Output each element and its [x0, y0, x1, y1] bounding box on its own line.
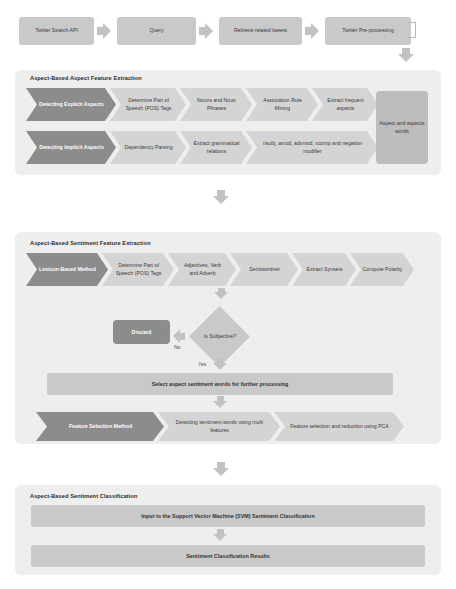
stage-label: Twitter Pre-processing — [342, 27, 394, 34]
arrow-head — [213, 468, 229, 476]
connector-stub — [408, 22, 416, 38]
chevron-feature-selection-reduction-pca[interactable]: Feature selection and reduction using PC… — [274, 412, 404, 441]
chevron-dependency-parsing[interactable]: Dependency Parsing — [110, 131, 186, 164]
arrow-head — [103, 23, 111, 39]
chevron-detecting-implicit-aspects[interactable]: Detecting Implicit Aspects — [26, 131, 116, 164]
chevron-label: Detecting Implicit Aspects — [39, 144, 104, 151]
chevron-label: Extract frequent aspects — [324, 97, 367, 111]
stage-label: Retrieve related tweets — [234, 27, 287, 34]
chevron-label: nsubj, amod, advmod, xcomp and negation … — [258, 140, 367, 154]
arrow-retrieve-to-preprocessing — [305, 23, 319, 39]
bar-input-to-svm-classification[interactable]: Input to the Support Vector Machine (SVM… — [31, 505, 425, 527]
arrow-head — [213, 196, 229, 204]
chevron-label: Dependency Parsing — [124, 144, 172, 151]
chevron-label: Feature Selection Method — [69, 423, 132, 430]
bar-label: Select aspect sentiment words for furthe… — [152, 381, 289, 387]
stage-retrieve-related-tweets[interactable]: Retrieve related tweets — [219, 17, 302, 45]
arrow-head — [311, 23, 319, 39]
output-box-aspect-and-aspects-words[interactable]: Aspect and aspects words — [376, 91, 428, 164]
chevron-label: Adjectives, Verb and Adverb — [180, 262, 225, 276]
arrow-head — [213, 534, 227, 541]
chevron-detecting-sentiment-words-multi-features[interactable]: Detecting sentiment words using multi fe… — [158, 412, 280, 441]
decision-label: Is Subjective? — [204, 333, 236, 340]
arrow-decision-to-select-bar — [213, 358, 227, 372]
arrow-search-to-query — [97, 23, 111, 39]
stage-label: Twitter Search API — [35, 27, 78, 34]
arrow-head — [213, 401, 227, 408]
arrow-head — [214, 292, 228, 299]
edge-label-no: No — [174, 344, 180, 350]
output-box-label: Aspect and aspects words — [376, 120, 428, 135]
chevron-label: Determine Part of Speech (POS) Tags — [122, 97, 175, 111]
panel-title-sentiment: Aspect-Based Sentiment Feature Extractio… — [30, 240, 151, 246]
bar-select-aspect-sentiment-words[interactable]: Select aspect sentiment words for furthe… — [47, 373, 393, 395]
arrow-head — [205, 23, 213, 39]
chevron-determine-pos-tags-explicit[interactable]: Determine Part of Speech (POS) Tags — [110, 88, 186, 121]
chevron-feature-selection-method[interactable]: Feature Selection Method — [36, 412, 164, 441]
decision-label-wrapper: Is Subjective? — [190, 320, 250, 354]
arrow-select-bar-to-feature-row — [213, 396, 227, 409]
chevron-label: Detecting Explicit Aspects — [39, 101, 104, 108]
stage-label: Query — [149, 27, 163, 34]
arrow-polarity-to-decision — [214, 288, 228, 300]
arrow-decision-to-discard — [172, 329, 185, 343]
chevron-detecting-explicit-aspects[interactable]: Detecting Explicit Aspects — [26, 88, 116, 121]
stage-query[interactable]: Query — [117, 17, 196, 45]
panel-title-aspect: Aspect-Based Aspect Feature Extraction — [30, 75, 142, 81]
edge-label-yes: Yes — [198, 361, 206, 367]
chevron-lexicon-based-method[interactable]: Lexicon-Based Method — [26, 253, 108, 286]
stage-twitter-preprocessing[interactable]: Twitter Pre-processing — [325, 17, 411, 45]
arrow-svm-to-results — [213, 529, 227, 542]
panel-title-classification: Aspect-Based Sentiment Classification — [30, 493, 138, 499]
bar-label: Sentiment Classification Results — [186, 553, 270, 559]
chevron-label: Sentiwordnet — [249, 266, 279, 273]
discard-label: Discard — [132, 329, 152, 335]
bar-label: Input to the Support Vector Machine (SVM… — [141, 513, 314, 519]
chevron-label: Association Rule Mining — [258, 97, 307, 111]
stage-twitter-search-api[interactable]: Twitter Search API — [19, 17, 94, 45]
arrow-query-to-retrieve — [199, 23, 213, 39]
arrow-aspect-to-sentiment-section — [213, 190, 229, 206]
arrow-head — [213, 363, 227, 370]
bar-sentiment-classification-results[interactable]: Sentiment Classification Results — [31, 545, 425, 567]
chevron-label: Nouns and Noun Phrases — [192, 97, 241, 111]
chevron-label: Feature selection and reduction using PC… — [290, 423, 389, 430]
arrow-head — [173, 329, 180, 343]
chevron-dependency-relation-types[interactable]: nsubj, amod, advmod, xcomp and negation … — [246, 131, 378, 164]
arrow-head — [398, 54, 414, 62]
arrow-preprocessing-to-aspect-section — [398, 48, 414, 64]
chevron-label: Compute Polarity — [363, 266, 403, 273]
chevron-label: Extract Synsets — [306, 266, 342, 273]
box-discard[interactable]: Discard — [113, 320, 170, 344]
arrow-sentiment-to-classification-section — [213, 462, 229, 478]
chevron-label: Determine Part of Speech (POS) Tags — [114, 262, 163, 276]
chevron-label: Extract grammatical relations — [192, 140, 241, 154]
chevron-label: Detecting sentiment words using multi fe… — [170, 419, 269, 433]
chevron-label: Lexicon-Based Method — [39, 266, 96, 273]
